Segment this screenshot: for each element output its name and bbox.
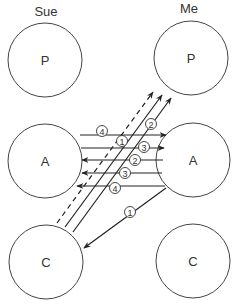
- sue-child-state: C: [9, 225, 83, 299]
- label-1-mid: 1: [117, 136, 128, 147]
- label-2-diagonal: 2: [146, 119, 157, 130]
- arrow-me-a-to-sue-c: [84, 188, 166, 248]
- sue-child-label: C: [41, 255, 50, 270]
- me-adult-label: A: [189, 153, 198, 168]
- sue-adult-label: A: [41, 154, 50, 169]
- label-4-left: 4: [110, 183, 121, 194]
- me-parent-state: P: [154, 21, 228, 95]
- label-3-right: 3: [139, 142, 150, 153]
- label-3-left: 3: [120, 168, 131, 179]
- svg-text:2: 2: [148, 120, 153, 130]
- me-child-state: C: [156, 224, 230, 298]
- me-parent-label: P: [187, 51, 196, 66]
- me-adult-state: A: [156, 123, 230, 197]
- svg-text:3: 3: [141, 143, 146, 153]
- svg-text:2: 2: [132, 156, 137, 166]
- label-4-top: 4: [97, 126, 108, 137]
- svg-text:1: 1: [119, 137, 124, 147]
- me-child-label: C: [188, 254, 197, 269]
- svg-text:3: 3: [122, 169, 127, 179]
- svg-text:4: 4: [99, 127, 104, 137]
- svg-text:4: 4: [112, 184, 117, 194]
- sue-parent-state: P: [8, 23, 82, 97]
- svg-text:1: 1: [127, 208, 132, 218]
- sue-adult-state: A: [8, 124, 82, 198]
- label-2-left: 2: [130, 155, 141, 166]
- label-1-bottom: 1: [125, 207, 136, 218]
- arrow-sue-c-to-me-p-1: [65, 95, 162, 227]
- sue-parent-label: P: [41, 53, 50, 68]
- transaction-diagram: P P A A C C 4 1 2 3: [0, 0, 234, 304]
